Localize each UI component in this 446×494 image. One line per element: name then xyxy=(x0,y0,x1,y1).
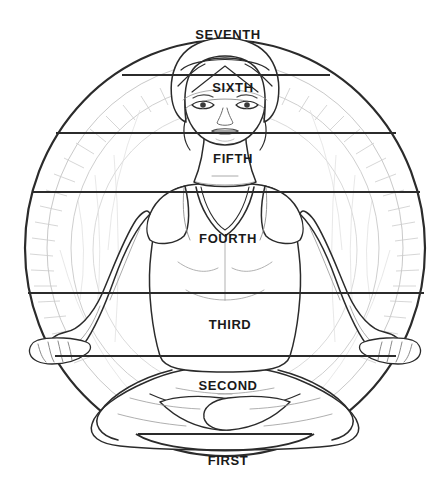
chakra-label-third: THIRD xyxy=(209,318,252,331)
chakra-label-seventh: SEVENTH xyxy=(195,28,261,41)
left-eye xyxy=(192,101,214,109)
right-eye xyxy=(236,101,258,109)
face xyxy=(184,58,265,145)
chakra-diagram: SEVENTH SIXTH FIFTH FOURTH THIRD SECOND … xyxy=(0,0,446,494)
chakra-label-second: SECOND xyxy=(198,379,257,392)
chakra-label-fourth: FOURTH xyxy=(199,232,257,245)
chakra-label-sixth: SIXTH xyxy=(212,81,253,94)
chakra-label-first: FIRST xyxy=(208,454,249,467)
chakra-illustration xyxy=(0,0,446,494)
chakra-label-fifth: FIFTH xyxy=(213,152,253,165)
